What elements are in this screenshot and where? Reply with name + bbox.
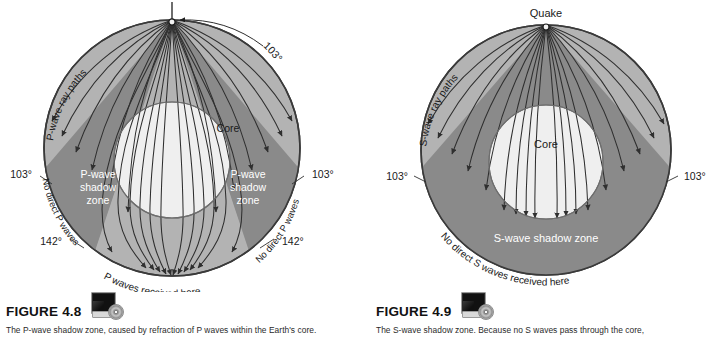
figure-page: Core P-wave ray paths P-wave shadow zone… <box>0 0 723 351</box>
caption-title-row: FIGURE 4.9 <box>376 292 723 319</box>
angle-label-103-left: 103° <box>10 168 32 180</box>
cd-rom-icon <box>89 292 123 318</box>
svg-text:shadow: shadow <box>80 181 117 193</box>
svg-text:zone: zone <box>237 194 260 206</box>
caption-block-4-8: FIGURE 4.8 The P-wave shadow zone, cause… <box>0 292 376 335</box>
figure-s-wave: Quake Core S-wave ray paths S-wave shado… <box>370 0 723 351</box>
s-wave-shadow-zone-label: S-wave shadow zone <box>494 232 599 244</box>
figure-caption: The S-wave shadow zone. Because no S wav… <box>376 325 723 335</box>
svg-text:P-wave: P-wave <box>230 168 265 180</box>
angle-label-103-right: 103° <box>684 170 706 182</box>
quake-focus-marker <box>543 24 549 30</box>
cd-rom-icon <box>459 292 493 318</box>
figure-number: FIGURE 4.9 <box>376 304 452 319</box>
caption-title-row: FIGURE 4.8 <box>6 292 376 319</box>
svg-text:P-wave: P-wave <box>80 168 115 180</box>
figure-caption: The P-wave shadow zone, caused by refrac… <box>6 325 376 335</box>
figure-p-wave: Core P-wave ray paths P-wave shadow zone… <box>0 0 370 351</box>
angle-label-142-left: 142° <box>40 235 62 247</box>
p-wave-diagram: Core P-wave ray paths P-wave shadow zone… <box>0 0 370 292</box>
s-wave-diagram: Quake Core S-wave ray paths S-wave shado… <box>370 0 723 292</box>
angle-label-142-right: 142° <box>282 235 304 247</box>
svg-text:zone: zone <box>87 194 110 206</box>
svg-text:shadow: shadow <box>230 181 267 193</box>
core-label: Core <box>534 138 558 150</box>
angle-label-103-right: 103° <box>312 168 334 180</box>
caption-block-4-9: FIGURE 4.9 The S-wave shadow zone. Becau… <box>370 292 723 335</box>
quake-focus-marker <box>169 2 175 26</box>
quake-label: Quake <box>530 7 562 19</box>
angle-label-103-left: 103° <box>386 170 408 182</box>
figure-number: FIGURE 4.8 <box>6 304 82 319</box>
core-label: Core <box>217 122 240 134</box>
earth-core <box>489 105 603 219</box>
